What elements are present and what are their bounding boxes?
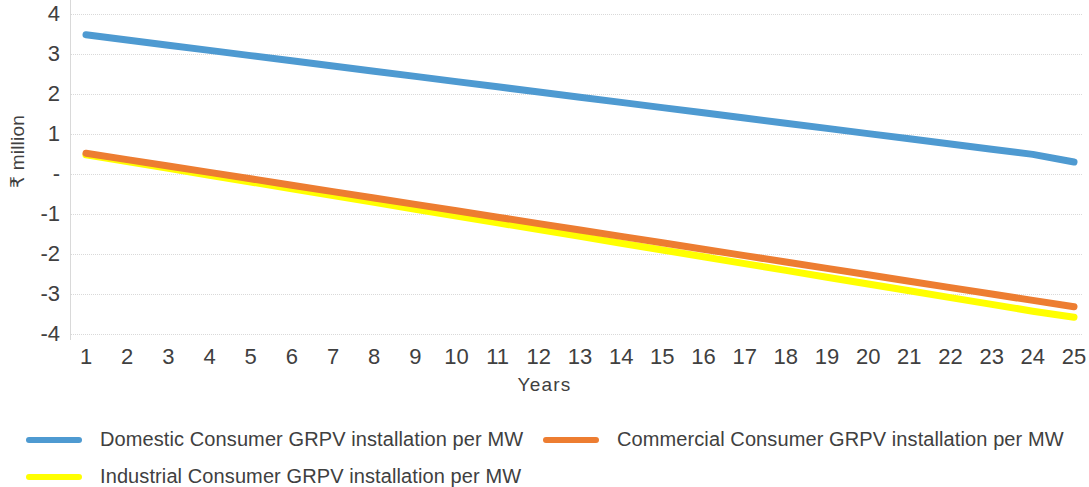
x-axis-tick-label: 7 [327, 344, 339, 370]
x-axis-tick-label: 23 [979, 344, 1003, 370]
x-axis-tick-label: 3 [162, 344, 174, 370]
legend-swatch-domestic [26, 437, 82, 443]
series-line [86, 35, 1074, 162]
x-axis-tick-label: 14 [609, 344, 633, 370]
x-axis-tick-label: 4 [203, 344, 215, 370]
series-line [86, 153, 1074, 307]
x-axis-tick-label: 16 [691, 344, 715, 370]
y-axis-tick-label: 2 [48, 81, 60, 107]
x-axis-tick-label: 5 [245, 344, 257, 370]
x-axis-tick-label: 19 [815, 344, 839, 370]
y-axis-tick-label: -4 [40, 321, 60, 347]
x-axis-tick-label: 25 [1062, 344, 1086, 370]
y-axis-tick-label: - [53, 161, 60, 187]
x-axis-tick-label: 17 [732, 344, 756, 370]
x-axis-tick-label: 10 [444, 344, 468, 370]
y-axis-tick-label: -2 [40, 241, 60, 267]
x-axis-tick-label: 2 [121, 344, 133, 370]
y-axis-tick-label: 3 [48, 41, 60, 67]
x-axis-tick-label: 15 [650, 344, 674, 370]
legend-swatch-commercial [543, 437, 599, 443]
chart-legend: Domestic Consumer GRPV installation per … [0, 420, 1089, 487]
x-axis-tick-label: 21 [897, 344, 921, 370]
x-axis-tick-label: 24 [1021, 344, 1045, 370]
y-axis-tick-label: -3 [40, 281, 60, 307]
legend-label-industrial: Industrial Consumer GRPV installation pe… [100, 465, 521, 487]
legend-swatch-industrial [26, 474, 82, 480]
y-axis-tick-labels: 4321--1-2-3-4 [16, 0, 60, 340]
x-axis-tick-label: 6 [286, 344, 298, 370]
x-axis-tick-label: 22 [938, 344, 962, 370]
plot-area [70, 0, 1082, 340]
y-axis-tick-label: 1 [48, 121, 60, 147]
legend-item-domestic[interactable]: Domestic Consumer GRPV installation per … [26, 428, 523, 451]
y-axis-tick-label: 4 [48, 1, 60, 27]
line-chart: ₹ million 4321--1-2-3-4 1234567891011121… [0, 0, 1089, 487]
x-axis-tick-label: 11 [486, 344, 509, 370]
y-axis-tick-label: -1 [40, 201, 60, 227]
x-axis-tick-label: 12 [527, 344, 551, 370]
x-axis-tick-label: 13 [568, 344, 592, 370]
x-axis-tick-labels: 1234567891011121314151617181920212223242… [70, 344, 1082, 374]
x-axis-tick-label: 8 [368, 344, 380, 370]
legend-label-commercial: Commercial Consumer GRPV installation pe… [617, 428, 1064, 451]
series-lines [70, 0, 1082, 340]
legend-item-commercial[interactable]: Commercial Consumer GRPV installation pe… [543, 428, 1064, 451]
x-axis-tick-label: 1 [80, 344, 92, 370]
x-axis-title: Years [0, 374, 1089, 396]
x-axis-tick-label: 9 [409, 344, 421, 370]
legend-label-domestic: Domestic Consumer GRPV installation per … [100, 428, 523, 451]
x-axis-tick-label: 20 [856, 344, 880, 370]
legend-item-industrial[interactable]: Industrial Consumer GRPV installation pe… [26, 465, 521, 487]
x-axis-tick-label: 18 [774, 344, 798, 370]
